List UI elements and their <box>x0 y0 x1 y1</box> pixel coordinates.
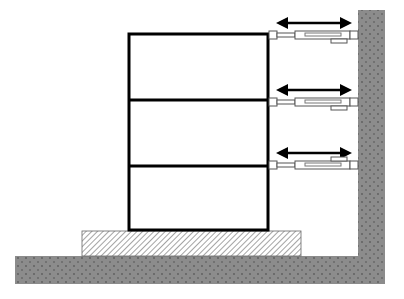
building-frame <box>129 34 268 230</box>
double-arrow-icon <box>276 84 352 96</box>
double-arrow-icon <box>276 17 352 29</box>
diagram-canvas <box>0 0 404 299</box>
actuator-level-3 <box>269 17 358 43</box>
base-isolation-slab <box>82 231 301 256</box>
actuator-level-1 <box>269 147 358 169</box>
actuator-level-2 <box>269 84 358 110</box>
